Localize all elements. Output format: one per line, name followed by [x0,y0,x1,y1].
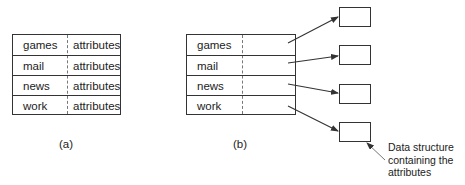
annotation-line-3: attributes [388,166,454,179]
annotation-pointer [367,143,385,160]
annotation-text: Data structure containing the attributes [388,141,454,179]
arrow-work [288,106,338,131]
arrow-games [288,17,338,43]
annotation-line-2: containing the [388,154,454,167]
arrow-mail [288,56,338,63]
annotation-line-1: Data structure [388,141,454,154]
arrow-news [288,84,338,93]
